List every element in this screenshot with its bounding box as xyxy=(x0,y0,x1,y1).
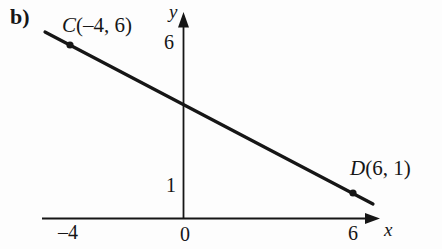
x-tick-neg4: –4 xyxy=(58,222,78,242)
y-axis-arrowhead-icon xyxy=(178,12,189,28)
x-axis-label: x xyxy=(384,220,392,239)
line-through-c-d xyxy=(45,32,373,204)
point-d-coords: (6, 1) xyxy=(365,156,411,180)
part-label: b) xyxy=(10,6,30,28)
point-c-name: C xyxy=(62,13,76,37)
x-tick-6: 6 xyxy=(348,223,358,243)
point-c-coords: (–4, 6) xyxy=(76,13,132,37)
origin-label: 0 xyxy=(180,224,190,244)
x-axis-arrowhead-icon xyxy=(365,213,380,224)
point-c-dot xyxy=(66,41,73,48)
plot-canvas xyxy=(0,0,442,249)
point-d-label: D(6, 1) xyxy=(350,158,411,179)
point-c-label: C(–4, 6) xyxy=(62,15,132,36)
y-tick-1: 1 xyxy=(166,175,176,195)
coordinate-plane-figure: b) C(–4, 6) D(6, 1) y x 6 1 –4 0 6 xyxy=(0,0,442,249)
y-axis-label: y xyxy=(169,2,177,21)
point-d-name: D xyxy=(350,156,365,180)
y-tick-6: 6 xyxy=(164,32,174,52)
point-d-dot xyxy=(349,189,356,196)
